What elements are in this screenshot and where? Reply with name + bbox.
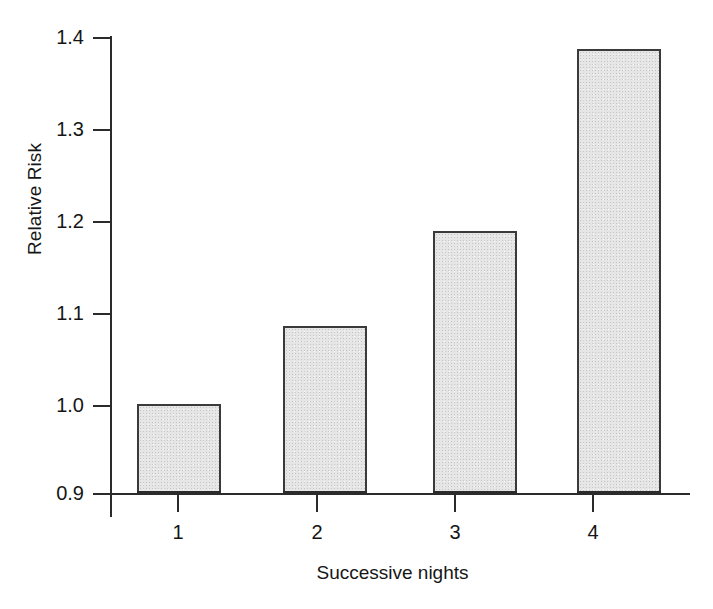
x-tick-label-3: 3 [425, 521, 485, 544]
x-tick-label-2: 2 [287, 521, 347, 544]
bar-chart: Relative Risk 1.4 1.3 1.2 1.1 1.0 0.9 1 … [0, 0, 713, 609]
y-tick-mark-6 [93, 493, 111, 495]
y-axis-title: Relative Risk [24, 119, 46, 279]
x-axis-title-text: Successive nights [316, 562, 468, 584]
y-tick-label-1-0: 1.0 [28, 394, 84, 417]
x-tick-mark-2 [316, 494, 318, 512]
y-tick-mark-3 [93, 221, 111, 223]
x-tick-mark-1 [177, 494, 179, 512]
y-tick-label-1-1: 1.1 [28, 302, 84, 325]
y-axis-line [110, 36, 112, 517]
x-tick-label-4: 4 [563, 521, 623, 544]
bar-night-2[interactable] [283, 326, 367, 495]
bar-night-4[interactable] [577, 49, 661, 495]
y-tick-mark-1 [93, 37, 111, 39]
x-axis-title: Successive nights [0, 562, 713, 584]
x-tick-label-1: 1 [148, 521, 208, 544]
x-tick-mark-4 [592, 494, 594, 512]
y-tick-label-1-4: 1.4 [28, 26, 84, 49]
y-tick-mark-4 [93, 313, 111, 315]
y-tick-label-1-2: 1.2 [28, 210, 84, 233]
y-tick-mark-2 [93, 129, 111, 131]
bar-night-3[interactable] [433, 231, 517, 495]
y-tick-label-0-9: 0.9 [28, 482, 84, 505]
bar-night-1[interactable] [137, 404, 221, 495]
y-tick-label-1-3: 1.3 [28, 118, 84, 141]
x-tick-mark-3 [454, 494, 456, 512]
y-tick-mark-5 [93, 405, 111, 407]
